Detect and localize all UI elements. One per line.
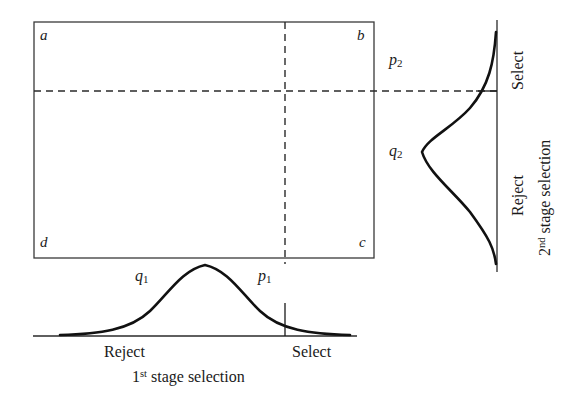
second-stage-q2-subscript: 2: [397, 148, 403, 160]
first-stage-select-label: Select: [292, 344, 331, 360]
first-stage-p1-base: p: [258, 267, 266, 284]
figure-drawing-canvas: [0, 0, 576, 405]
first-stage-caption-number: 1: [132, 368, 140, 385]
first-stage-normal-curve: [60, 265, 350, 335]
corner-label-c: c: [359, 235, 366, 250]
second-stage-normal-curve: [422, 32, 496, 264]
selection-rectangle: [34, 22, 374, 258]
first-stage-caption: 1st stage selection: [132, 369, 245, 385]
second-stage-caption-ordinal: nd: [536, 238, 547, 249]
second-stage-caption-number: 2: [536, 248, 553, 256]
second-stage-q2-base: q: [389, 142, 397, 159]
second-stage-caption: 2nd stage selection: [537, 140, 553, 256]
first-stage-q1-base: q: [135, 267, 143, 284]
first-stage-q1-subscript: 1: [143, 273, 149, 285]
second-stage-p2-label: p2: [389, 52, 403, 69]
corner-label-a: a: [40, 28, 48, 43]
first-stage-q1-label: q1: [135, 268, 149, 285]
first-stage-reject-label: Reject: [104, 344, 145, 360]
two-stage-selection-figure: a b c d q1 p1 Reject Select 1st stage se…: [0, 0, 576, 405]
second-stage-p2-base: p: [389, 51, 397, 68]
second-stage-select-label: Select: [510, 51, 526, 90]
second-stage-p2-subscript: 2: [397, 57, 403, 69]
first-stage-p1-label: p1: [258, 268, 272, 285]
first-stage-p1-subscript: 1: [266, 273, 272, 285]
second-stage-caption-text: stage selection: [536, 140, 553, 238]
corner-label-b: b: [357, 28, 365, 43]
first-stage-caption-ordinal: st: [140, 368, 147, 379]
corner-label-d: d: [40, 235, 48, 250]
second-stage-reject-label: Reject: [510, 175, 526, 216]
first-stage-caption-text: stage selection: [147, 368, 245, 385]
second-stage-q2-label: q2: [389, 143, 403, 160]
